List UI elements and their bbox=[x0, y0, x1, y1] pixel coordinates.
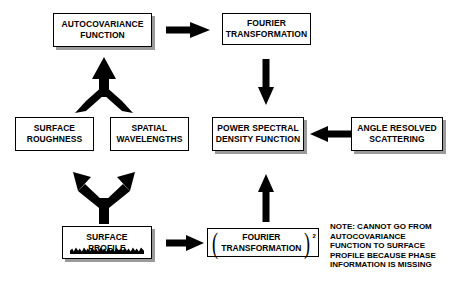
box-spatial-wavelengths: SPATIAL WAVELENGTHS bbox=[110, 117, 189, 151]
surface-profile-trace-icon bbox=[70, 246, 144, 254]
box-angle-resolved-scattering: ANGLE RESOLVED SCATTERING bbox=[351, 117, 443, 151]
diagram-canvas: AUTOCOVARIANCE FUNCTION FOURIER TRANSFOR… bbox=[0, 0, 461, 285]
box-autocovariance-function-label: AUTOCOVARIANCE FUNCTION bbox=[62, 19, 144, 41]
note-text: NOTE: CANNOT GO FROM AUTOCOVARIANCE FUNC… bbox=[330, 222, 458, 270]
fourier-squared-content: ( FOURIER TRANSFORMATION ) 2 bbox=[210, 232, 315, 254]
arrow-split-up-profile-to-roughness-wavelengths bbox=[73, 172, 135, 224]
box-autocovariance-function: AUTOCOVARIANCE FUNCTION bbox=[53, 13, 152, 47]
arrow-up-fourier-squared-to-psd bbox=[257, 172, 275, 222]
box-fourier-transformation-squared: ( FOURIER TRANSFORMATION ) 2 bbox=[207, 228, 319, 257]
arrow-right-autocovariance-to-fourier bbox=[166, 22, 212, 38]
box-surface-roughness-label: SURFACE ROUGHNESS bbox=[27, 123, 83, 145]
box-power-spectral-density-function: POWER SPECTRAL DENSITY FUNCTION bbox=[212, 117, 304, 151]
box-fourier-transformation: FOURIER TRANSFORMATION bbox=[222, 13, 311, 45]
arrow-down-fourier-to-psd bbox=[257, 59, 275, 107]
box-spatial-wavelengths-label: SPATIAL WAVELENGTHS bbox=[116, 123, 182, 145]
box-surface-roughness: SURFACE ROUGHNESS bbox=[15, 117, 94, 151]
box-fourier-transformation-squared-label: FOURIER TRANSFORMATION bbox=[220, 232, 302, 254]
arrow-left-scattering-to-psd bbox=[310, 126, 352, 142]
arrow-merge-up-to-autocovariance bbox=[73, 57, 135, 115]
box-fourier-transformation-label: FOURIER TRANSFORMATION bbox=[226, 18, 308, 40]
box-power-spectral-density-function-label: POWER SPECTRAL DENSITY FUNCTION bbox=[216, 123, 301, 145]
box-surface-profile: SURFACE PROFILE bbox=[62, 226, 152, 259]
box-angle-resolved-scattering-label: ANGLE RESOLVED SCATTERING bbox=[357, 123, 437, 145]
arrow-right-profile-to-fourier-squared bbox=[166, 235, 206, 251]
